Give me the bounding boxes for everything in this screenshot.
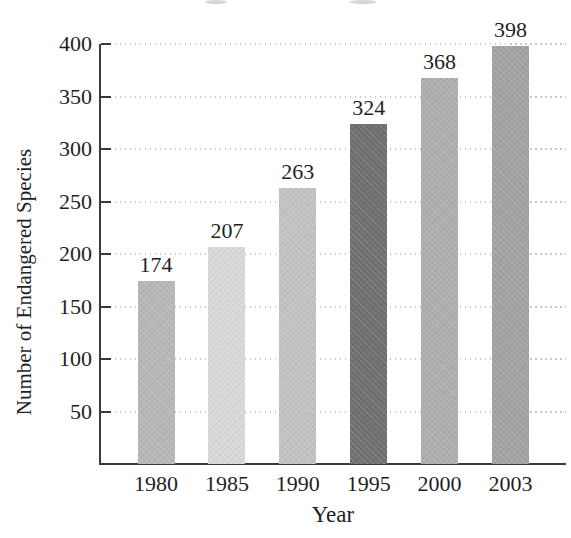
bar-1980 <box>138 281 175 464</box>
x-tick-label-2003: 2003 <box>469 470 553 498</box>
y-tick-label-250: 250 <box>30 188 92 216</box>
bar-1990 <box>279 188 316 464</box>
y-tick-mark-200 <box>101 253 111 255</box>
y-tick-mark-400 <box>101 43 111 45</box>
bar-chart-figure: 50100150200250300350400 1741980207198526… <box>0 0 571 538</box>
bar-1995 <box>350 124 387 464</box>
y-tick-mark-150 <box>101 306 111 308</box>
y-tick-mark-100 <box>101 358 111 360</box>
y-tick-mark-350 <box>101 96 111 98</box>
bar-2003 <box>492 46 529 464</box>
bar-1985 <box>208 247 245 464</box>
cropped-title-remnant <box>205 0 227 4</box>
y-tick-mark-250 <box>101 201 111 203</box>
y-tick-label-50: 50 <box>30 398 92 426</box>
gridline-400 <box>110 43 566 45</box>
bar-value-label-2000: 368 <box>398 49 482 75</box>
y-tick-label-200: 200 <box>30 240 92 268</box>
bar-value-label-1995: 324 <box>327 95 411 121</box>
bar-2000 <box>421 78 458 464</box>
y-tick-mark-50 <box>101 411 111 413</box>
bar-value-label-1990: 263 <box>256 159 340 185</box>
bar-value-label-1980: 174 <box>114 252 198 278</box>
y-tick-label-350: 350 <box>30 83 92 111</box>
cropped-title-remnant <box>350 0 376 4</box>
y-tick-label-100: 100 <box>30 345 92 373</box>
y-tick-label-400: 400 <box>30 30 92 58</box>
bar-value-label-2003: 398 <box>469 17 553 43</box>
y-tick-label-150: 150 <box>30 293 92 321</box>
y-tick-mark-300 <box>101 148 111 150</box>
x-axis-title: Year <box>293 501 373 529</box>
bar-value-label-1985: 207 <box>185 218 269 244</box>
y-tick-label-300: 300 <box>30 135 92 163</box>
y-axis-title: Number of Endangered Species <box>10 112 38 452</box>
